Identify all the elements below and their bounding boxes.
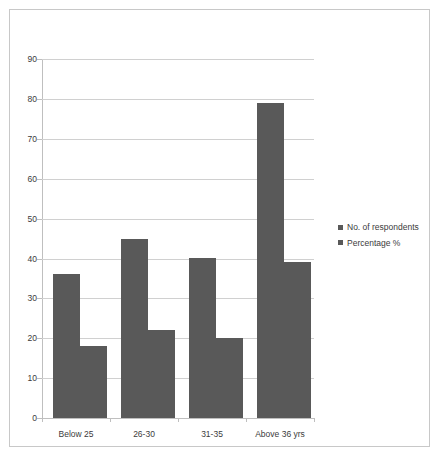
bar-respondents-below-25 — [53, 274, 80, 418]
y-tick-label: 50 — [28, 214, 37, 223]
legend-swatch-icon — [338, 225, 343, 230]
legend-label: Percentage % — [347, 239, 400, 248]
x-tick-label-31-35: 31-35 — [201, 430, 223, 439]
x-tick-label-above-36: Above 36 yrs — [255, 430, 305, 439]
y-tick-label: 60 — [28, 174, 37, 183]
bar-respondents-31-35 — [189, 258, 216, 418]
y-tick-label: 40 — [28, 254, 37, 263]
y-tick-label: 80 — [28, 95, 37, 104]
y-tick-label: 90 — [28, 55, 37, 64]
chart-frame: 90 80 70 60 50 40 30 20 10 0 — [9, 9, 430, 447]
bar-respondents-above-36 — [257, 103, 284, 418]
x-tick-mark — [246, 418, 247, 422]
bar-percentage-26-30 — [148, 330, 175, 418]
y-axis-tick-labels: 90 80 70 60 50 40 30 20 10 0 — [18, 10, 37, 446]
y-tick-label: 10 — [28, 374, 37, 383]
y-tick-label: 70 — [28, 135, 37, 144]
x-tick-mark — [110, 418, 111, 422]
bar-percentage-above-36 — [284, 262, 311, 418]
x-tick-label-26-30: 26-30 — [133, 430, 155, 439]
y-tick-label: 20 — [28, 334, 37, 343]
bar-respondents-26-30 — [121, 239, 148, 419]
bar-percentage-31-35 — [216, 338, 243, 418]
x-tick-mark — [42, 418, 43, 422]
x-tick-mark — [178, 418, 179, 422]
gridline — [42, 59, 314, 60]
x-tick-mark — [314, 418, 315, 422]
y-tick-label: 30 — [28, 294, 37, 303]
bar-percentage-below-25 — [80, 346, 107, 418]
legend-swatch-icon — [338, 240, 343, 245]
legend-item-percentage: Percentage % — [338, 239, 428, 248]
legend-label: No. of respondents — [347, 223, 419, 232]
plot-area — [42, 59, 314, 418]
gridline — [42, 99, 314, 100]
legend-item-respondents: No. of respondents — [338, 223, 428, 232]
x-tick-label-below-25: Below 25 — [59, 430, 94, 439]
chart-legend: No. of respondents Percentage % — [338, 223, 428, 254]
